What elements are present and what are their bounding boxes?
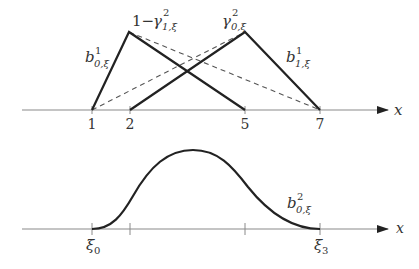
label-b1-1: b 1 1,ξ (286, 45, 311, 69)
label-b1-0: b 1 0,ξ (85, 45, 110, 69)
bottom-plot: x ξ 0 ξ 3 b 2 0,ξ (22, 150, 404, 256)
svg-text:1−: 1− (132, 12, 154, 30)
svg-text:0,ξ: 0,ξ (94, 58, 110, 69)
svg-text:2: 2 (297, 191, 303, 202)
dashed-line-falling (129, 32, 320, 110)
tick-label-2: 2 (126, 116, 135, 132)
svg-text:0: 0 (94, 245, 100, 256)
bottom-axis-label: x (396, 220, 404, 236)
b-spline-diagram: 1 2 5 7 x b 1 0,ξ 1− γ 2 1,ξ γ 2 0,ξ b 1… (0, 0, 419, 269)
svg-text:1,ξ: 1,ξ (162, 21, 178, 32)
svg-text:0,ξ: 0,ξ (231, 21, 247, 32)
top-plot: 1 2 5 7 x b 1 0,ξ 1− γ 2 1,ξ γ 2 0,ξ b 1… (22, 7, 403, 132)
svg-text:γ: γ (222, 12, 231, 30)
svg-text:1,ξ: 1,ξ (295, 58, 311, 69)
tick-label-7: 7 (316, 116, 325, 132)
svg-text:2: 2 (163, 7, 169, 18)
label-xi3: ξ 3 (314, 236, 328, 256)
svg-text:3: 3 (322, 245, 328, 256)
label-one-minus-gamma: 1− γ 2 1,ξ (132, 7, 178, 32)
label-xi0: ξ 0 (86, 236, 100, 256)
label-gamma-0: γ 2 0,ξ (222, 7, 247, 32)
quadratic-bspline-curve (92, 150, 320, 229)
top-axis-label: x (394, 101, 403, 119)
dashed-line-rising (92, 32, 245, 110)
svg-text:0,ξ: 0,ξ (296, 204, 312, 215)
svg-text:γ: γ (153, 12, 162, 30)
tick-label-1: 1 (88, 116, 97, 132)
svg-text:1: 1 (95, 45, 101, 56)
svg-text:2: 2 (232, 7, 238, 18)
svg-text:1: 1 (296, 45, 302, 56)
tick-label-5: 5 (241, 116, 250, 132)
label-b2-0: b 2 0,ξ (287, 191, 312, 215)
